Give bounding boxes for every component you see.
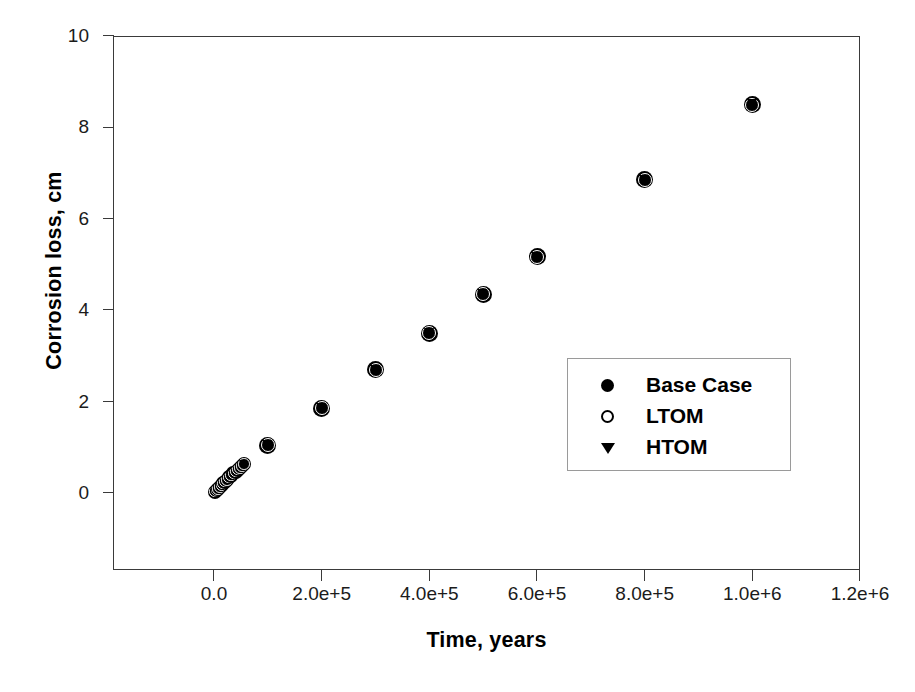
- data-point: [421, 325, 438, 342]
- data-point: [744, 96, 761, 113]
- data-point: [313, 400, 330, 417]
- x-tick-mark: [321, 570, 322, 581]
- y-tick-label: 0: [29, 483, 89, 502]
- htom-marker: [531, 252, 541, 262]
- legend-label: LTOM: [646, 401, 704, 431]
- y-axis-title: Corrosion loss, cm: [42, 131, 67, 411]
- data-point: [367, 361, 384, 378]
- x-tick-mark: [644, 570, 645, 581]
- y-tick-mark: [103, 35, 114, 36]
- chart-figure: 0246810 0.02.0e+54.0e+56.0e+58.0e+51.0e+…: [0, 0, 915, 692]
- data-point: [529, 248, 546, 265]
- x-tick-mark: [213, 570, 214, 581]
- y-tick-mark: [103, 401, 114, 402]
- x-tick-label: 1.0e+6: [697, 584, 807, 603]
- y-tick-label: 10: [29, 26, 89, 45]
- x-tick-mark: [429, 570, 430, 581]
- y-tick-mark: [103, 309, 114, 310]
- data-point: [259, 437, 276, 454]
- data-point: [636, 171, 653, 188]
- htom-marker: [370, 365, 380, 375]
- x-tick-mark: [752, 570, 753, 581]
- legend-item: HTOM: [568, 432, 792, 462]
- x-tick-label: 0.0: [159, 584, 269, 603]
- y-tick-mark: [103, 218, 114, 219]
- htom-marker: [477, 289, 487, 299]
- legend-symbol-filled-circle-icon: [598, 370, 620, 400]
- legend-symbol-open-circle-icon: [598, 401, 620, 431]
- x-tick-label: 4.0e+5: [374, 584, 484, 603]
- y-tick-mark: [103, 492, 114, 493]
- htom-marker: [639, 175, 649, 185]
- htom-marker: [316, 403, 326, 413]
- htom-marker: [239, 460, 247, 468]
- y-tick-mark: [103, 127, 114, 128]
- htom-marker: [424, 328, 434, 338]
- x-tick-label: 8.0e+5: [590, 584, 700, 603]
- legend-label: Base Case: [646, 370, 752, 400]
- data-point: [237, 457, 251, 471]
- x-tick-label: 1.2e+6: [805, 584, 915, 603]
- htom-marker: [747, 99, 757, 109]
- x-tick-label: 6.0e+5: [482, 584, 592, 603]
- x-axis-title: Time, years: [113, 628, 860, 653]
- x-tick-mark: [859, 570, 860, 581]
- legend-item: LTOM: [568, 401, 792, 431]
- chart-legend: Base CaseLTOMHTOM: [567, 358, 791, 471]
- legend-symbol-filled-triangle-down-icon: [598, 432, 620, 462]
- legend-label: HTOM: [646, 432, 707, 462]
- x-tick-label: 2.0e+5: [267, 584, 377, 603]
- data-point: [475, 286, 492, 303]
- legend-item: Base Case: [568, 370, 792, 400]
- htom-marker: [262, 440, 272, 450]
- x-tick-mark: [536, 570, 537, 581]
